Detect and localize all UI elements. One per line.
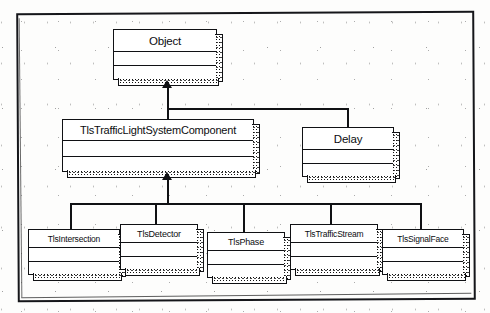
class-attributes-stream xyxy=(291,243,377,257)
class-name-intersection: TlsIntersection xyxy=(29,230,119,248)
generalization-arrow-to-component xyxy=(162,172,172,180)
class-box-shadow-bottom xyxy=(387,273,466,281)
connector-signalface-drop xyxy=(420,203,422,230)
class-box-stream[interactable]: TlsTrafficStream xyxy=(290,224,378,270)
class-attributes-component xyxy=(63,141,253,157)
class-attributes-delay xyxy=(303,150,393,164)
connector-intersection-drop xyxy=(70,203,72,230)
class-box-shadow-right xyxy=(252,124,260,174)
class-box-delay[interactable]: Delay xyxy=(302,127,394,177)
connector-detector-drop xyxy=(155,203,157,225)
class-name-object: Object xyxy=(114,30,216,52)
class-name-detector: TlsDetector xyxy=(121,225,197,243)
class-name-stream: TlsTrafficStream xyxy=(291,225,377,243)
connector-phase-drop xyxy=(243,203,245,233)
class-operations-phase xyxy=(208,265,284,277)
class-name-phase: TlsPhase xyxy=(208,233,284,251)
class-attributes-detector xyxy=(121,243,197,257)
class-box-shadow-right xyxy=(462,234,470,277)
class-box-intersection[interactable]: TlsIntersection xyxy=(28,229,120,275)
connector-stream-drop xyxy=(330,203,332,225)
class-operations-object xyxy=(114,66,216,79)
generalization-arrow-to-object xyxy=(162,80,172,88)
class-box-component[interactable]: TlsTrafficLightSystemComponent xyxy=(62,119,254,172)
connector-component-riser xyxy=(167,100,169,120)
class-operations-component xyxy=(63,157,253,171)
class-attributes-signalface xyxy=(383,248,463,262)
class-name-signalface: TlsSignalFace xyxy=(383,230,463,248)
class-attributes-object xyxy=(114,52,216,66)
class-box-signalface[interactable]: TlsSignalFace xyxy=(382,229,464,275)
class-box-shadow-bottom xyxy=(33,273,122,281)
class-operations-intersection xyxy=(29,262,119,274)
connector-subclass-bus xyxy=(70,203,421,205)
class-box-shadow-right xyxy=(392,132,400,179)
class-box-object[interactable]: Object xyxy=(113,29,217,80)
class-name-component: TlsTrafficLightSystemComponent xyxy=(63,120,253,141)
class-box-shadow-bottom xyxy=(212,276,287,284)
class-attributes-intersection xyxy=(29,248,119,262)
class-name-delay: Delay xyxy=(303,128,393,150)
class-operations-stream xyxy=(291,257,377,269)
class-operations-detector xyxy=(121,257,197,269)
class-operations-delay xyxy=(303,164,393,176)
class-attributes-phase xyxy=(208,251,284,265)
class-box-shadow-bottom xyxy=(307,175,396,183)
diagram-canvas: Object TlsTrafficLightSystemComponent De… xyxy=(0,0,490,313)
class-box-phase[interactable]: TlsPhase xyxy=(207,232,285,278)
connector-delay-riser xyxy=(347,108,349,128)
class-operations-signalface xyxy=(383,262,463,274)
class-box-shadow-right xyxy=(196,229,204,272)
connector-object-bus xyxy=(167,108,348,110)
class-box-shadow-right xyxy=(215,34,223,82)
class-box-shadow-bottom xyxy=(125,268,200,276)
class-box-detector[interactable]: TlsDetector xyxy=(120,224,198,270)
class-box-shadow-bottom xyxy=(295,268,380,276)
